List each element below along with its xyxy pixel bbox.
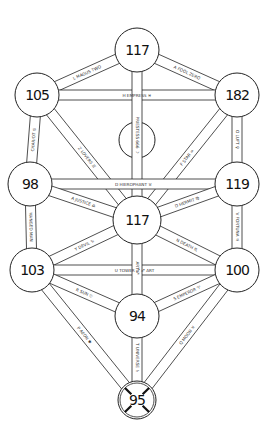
path-label: O LUFT ♀ xyxy=(235,130,240,149)
path-label: T UNIVERSE ♄ xyxy=(135,342,140,373)
sephirah-value: 103 xyxy=(20,262,44,278)
path-label: PRIESTESS 666 ☽ xyxy=(135,117,140,154)
path-label: V FORTUNA ♃ xyxy=(235,212,240,241)
sephirah-value: 117 xyxy=(125,212,149,228)
tree-of-life-diagram: A FOOL ZEROL MAGUS TWOH EMPRESS ♓PRIESTE… xyxy=(0,0,274,447)
path-label: H EMPRESS ♓ xyxy=(122,93,151,98)
sephirah-value: 117 xyxy=(125,42,149,58)
sephirah-value: 105 xyxy=(25,87,49,103)
sephirah-value: 182 xyxy=(225,87,249,103)
sephirah-value: 98 xyxy=(22,176,38,192)
sephirah-value: 119 xyxy=(225,176,249,192)
sephirah-value: 95 xyxy=(129,392,145,408)
path-label: ART ♐ xyxy=(135,261,140,274)
path-label: HANGED MAN xyxy=(28,212,34,241)
sephirah-value: 100 xyxy=(225,262,249,278)
sephirah-value: 94 xyxy=(129,308,146,324)
path-label: D HIEROPHANT ♉ xyxy=(115,182,152,187)
